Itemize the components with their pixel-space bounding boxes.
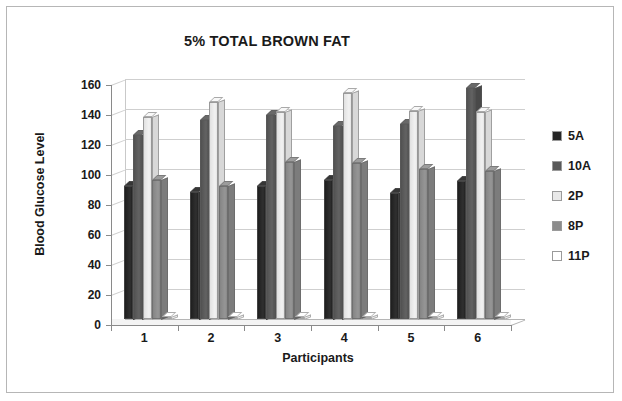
- chart-title: 5% TOTAL BROWN FAT: [7, 33, 527, 49]
- chart-frame: 5% TOTAL BROWN FAT Blood Glucose Level 0…: [6, 6, 614, 393]
- bar-face: [152, 180, 161, 320]
- y-tick-label: 160: [63, 78, 101, 92]
- bar[interactable]: [419, 169, 428, 319]
- legend-label: 10A: [568, 159, 591, 173]
- bar[interactable]: [228, 317, 237, 320]
- bar[interactable]: [200, 120, 209, 320]
- bar[interactable]: [428, 317, 437, 320]
- bar-face: [476, 112, 485, 319]
- legend-item-10a[interactable]: 10A: [552, 151, 614, 181]
- legend-swatch-icon: [552, 191, 562, 201]
- legend-label: 11P: [568, 249, 590, 263]
- bar-side: [161, 177, 168, 319]
- bar-face: [190, 192, 199, 320]
- bar[interactable]: [266, 115, 275, 319]
- y-tick-label: 60: [63, 228, 101, 242]
- bar-face: [333, 126, 342, 320]
- bar-face: [124, 186, 133, 320]
- bar-face: [219, 186, 228, 320]
- bar[interactable]: [485, 171, 494, 320]
- bar[interactable]: [209, 102, 218, 320]
- x-tick-mark: [378, 325, 379, 331]
- x-tick-mark: [511, 325, 512, 331]
- bar[interactable]: [352, 163, 361, 319]
- bar-side: [294, 159, 301, 319]
- bar-group: [111, 79, 178, 325]
- legend-swatch-icon: [552, 221, 562, 231]
- x-tick-mark: [111, 325, 112, 331]
- bar-group: [311, 79, 378, 325]
- bar-face: [457, 181, 466, 319]
- y-axis-line: [111, 85, 112, 325]
- x-tick-label: 2: [181, 331, 241, 345]
- bar[interactable]: [133, 135, 142, 320]
- legend-label: 8P: [568, 219, 583, 233]
- bar[interactable]: [409, 111, 418, 320]
- bar[interactable]: [343, 93, 352, 320]
- bar[interactable]: [285, 162, 294, 320]
- bar-side: [494, 168, 501, 319]
- bar[interactable]: [362, 317, 371, 320]
- chart-legend: 5A10A2P8P11P: [552, 121, 614, 271]
- bar-face: [285, 162, 294, 320]
- x-tick-mark: [444, 325, 445, 331]
- y-tick-label: 140: [63, 108, 101, 122]
- bar-face: [390, 193, 399, 319]
- legend-swatch-icon: [552, 251, 562, 261]
- y-tick-label: 120: [63, 138, 101, 152]
- plot-area: 020406080100120140160 123456: [111, 79, 525, 325]
- bar-face: [343, 93, 352, 320]
- x-tick-label: 5: [381, 331, 441, 345]
- bar[interactable]: [276, 112, 285, 319]
- bar[interactable]: [476, 112, 485, 319]
- legend-label: 5A: [568, 129, 584, 143]
- bar[interactable]: [152, 180, 161, 320]
- bar-face: [352, 163, 361, 319]
- bar[interactable]: [295, 317, 304, 320]
- x-tick-mark: [244, 325, 245, 331]
- bar-side: [228, 183, 235, 319]
- bar-face: [257, 186, 266, 320]
- bar[interactable]: [466, 88, 475, 319]
- legend-item-2p[interactable]: 2P: [552, 181, 614, 211]
- bar-face: [133, 135, 142, 320]
- bar-face: [400, 124, 409, 319]
- floor-right-edge: [511, 320, 525, 326]
- bar-side: [361, 160, 368, 319]
- bar-group: [444, 79, 511, 325]
- bar[interactable]: [400, 124, 409, 319]
- bar[interactable]: [324, 180, 333, 320]
- x-tick-label: 4: [314, 331, 374, 345]
- bar[interactable]: [143, 117, 152, 320]
- bar-face: [409, 111, 418, 320]
- bar[interactable]: [219, 186, 228, 320]
- legend-item-11p[interactable]: 11P: [552, 241, 614, 271]
- bar[interactable]: [162, 317, 171, 320]
- bar-face: [266, 115, 275, 319]
- bar[interactable]: [495, 317, 504, 320]
- legend-item-8p[interactable]: 8P: [552, 211, 614, 241]
- bar[interactable]: [457, 181, 466, 319]
- bar-group: [178, 79, 245, 325]
- bar[interactable]: [390, 193, 399, 319]
- bar-group: [378, 79, 445, 325]
- bar-face: [143, 117, 152, 320]
- x-tick-label: 3: [248, 331, 308, 345]
- legend-swatch-icon: [552, 161, 562, 171]
- bar-face: [485, 171, 494, 320]
- bar-face: [209, 102, 218, 320]
- bar[interactable]: [124, 186, 133, 320]
- x-axis-title: Participants: [111, 351, 525, 365]
- legend-swatch-icon: [552, 131, 562, 141]
- y-tick-label: 20: [63, 288, 101, 302]
- bar[interactable]: [190, 192, 199, 320]
- y-tick-label: 0: [63, 318, 101, 332]
- bar-side: [428, 166, 435, 319]
- legend-item-5a[interactable]: 5A: [552, 121, 614, 151]
- y-axis-title: Blood Glucose Level: [33, 109, 47, 279]
- bar[interactable]: [257, 186, 266, 320]
- bar-face: [276, 112, 285, 319]
- x-tick-label: 1: [114, 331, 174, 345]
- bar[interactable]: [333, 126, 342, 320]
- x-tick-label: 6: [448, 331, 508, 345]
